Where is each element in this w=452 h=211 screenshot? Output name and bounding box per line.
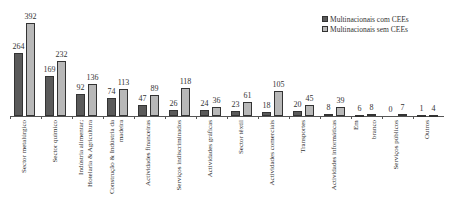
data-label: 4 [424, 104, 444, 113]
legend-swatch-dark [322, 16, 328, 22]
x-tick [165, 116, 166, 119]
category-label: Indústria alimentar; Hotelaria & Agricul… [77, 120, 95, 187]
x-tick [10, 116, 11, 119]
data-label: 118 [176, 77, 196, 86]
bar-com-cees [262, 112, 271, 116]
category-label: Actividades comerciais [268, 120, 277, 186]
x-tick [196, 116, 197, 119]
bar-sem-cees [429, 115, 438, 117]
bar-sem-cees [88, 84, 97, 116]
category-label: Actividades financeiras [144, 120, 153, 186]
bar-com-cees [231, 111, 240, 116]
bar-com-cees [324, 114, 333, 116]
bar-com-cees [14, 53, 23, 116]
bar-sem-cees [119, 89, 128, 116]
category-label: Sector químico [51, 120, 60, 163]
bar-sem-cees [26, 23, 35, 116]
x-tick [103, 116, 104, 119]
legend: Multinacionais com CEEs Multinacionais s… [322, 14, 409, 34]
category-label: Transportes [299, 120, 308, 153]
bar-com-cees [417, 115, 426, 117]
category-label: Serviços públicos [392, 120, 401, 170]
legend-item-sem-cees: Multinacionais sem CEEs [322, 24, 409, 34]
bar-sem-cees [367, 114, 376, 116]
x-tick [134, 116, 135, 119]
bar-com-cees [107, 98, 116, 116]
bar-chart: 264392Sector metalúrgico169232Sector quí… [0, 0, 452, 211]
x-tick [258, 116, 259, 119]
x-tick [289, 116, 290, 119]
bar-sem-cees [336, 107, 345, 116]
data-label: 61 [238, 91, 258, 100]
legend-label: Multinacionais com CEEs [330, 15, 409, 24]
bar-com-cees [45, 76, 54, 116]
category-label: Actividades gráficas [206, 120, 215, 177]
x-tick [413, 116, 414, 119]
bar-com-cees [200, 110, 209, 116]
category-label: Serviços indiscriminados [175, 120, 184, 191]
x-tick [382, 116, 383, 119]
bar-com-cees [76, 94, 85, 116]
x-tick [41, 116, 42, 119]
data-label: 113 [114, 78, 134, 87]
bar-sem-cees [305, 105, 314, 116]
x-tick [320, 116, 321, 119]
category-label: Sector têxtil [237, 120, 246, 154]
data-label: 8 [362, 103, 382, 112]
x-tick [227, 116, 228, 119]
bar-com-cees [355, 115, 364, 117]
legend-label: Multinacionais sem CEEs [330, 25, 408, 34]
legend-item-com-cees: Multinacionais com CEEs [322, 14, 409, 24]
bar-sem-cees [57, 61, 66, 116]
data-label: 39 [331, 96, 351, 105]
data-label: 7 [393, 103, 413, 112]
bar-sem-cees [181, 88, 190, 116]
category-label: Actividades informáticas [330, 120, 339, 190]
data-label: 89 [145, 84, 165, 93]
bar-sem-cees [243, 102, 252, 116]
bar-sem-cees [212, 107, 221, 116]
bar-sem-cees [398, 114, 407, 116]
data-label: 232 [52, 50, 72, 59]
data-label: 136 [83, 73, 103, 82]
x-tick [72, 116, 73, 119]
category-label: Em branco [352, 120, 379, 139]
bar-com-cees [293, 111, 302, 116]
data-label: 45 [300, 94, 320, 103]
data-label: 392 [21, 12, 41, 21]
legend-swatch-light [322, 26, 328, 32]
category-label: Sector metalúrgico [20, 120, 29, 173]
bar-sem-cees [274, 91, 283, 116]
data-label: 105 [269, 80, 289, 89]
data-label: 36 [207, 96, 227, 105]
category-label: Outros [423, 120, 432, 139]
bar-sem-cees [150, 95, 159, 116]
bar-com-cees [138, 105, 147, 116]
bar-com-cees [169, 110, 178, 116]
category-label: Construção & Indústria da madeira [108, 120, 126, 194]
x-tick [351, 116, 352, 119]
